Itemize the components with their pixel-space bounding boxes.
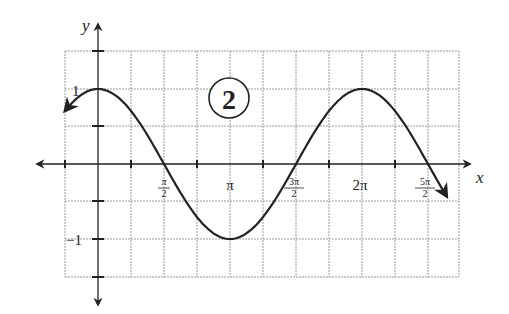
svg-text:2: 2	[292, 188, 297, 199]
svg-text:π: π	[161, 176, 167, 187]
cosine-graph: y x 1 −1 π 2 π 3π 2 2π 5π 2 2	[0, 0, 509, 314]
problem-number-badge: 2	[209, 78, 249, 118]
svg-text:3π: 3π	[289, 176, 299, 187]
x-tick-label-5pi-over-2: 5π 2	[415, 176, 435, 199]
x-axis-label: x	[475, 168, 484, 187]
y-tick-label-1: 1	[72, 83, 80, 99]
svg-text:2: 2	[162, 188, 167, 199]
svg-text:2: 2	[222, 84, 236, 115]
y-tick-label-neg1: −1	[66, 232, 82, 248]
y-axis-label: y	[80, 16, 90, 35]
x-tick-label-pi-over-2: π 2	[158, 176, 170, 199]
svg-text:5π: 5π	[420, 176, 430, 187]
x-tick-label-pi: π	[226, 177, 234, 193]
svg-text:2: 2	[423, 188, 428, 199]
x-tick-label-2pi: 2π	[352, 177, 368, 193]
